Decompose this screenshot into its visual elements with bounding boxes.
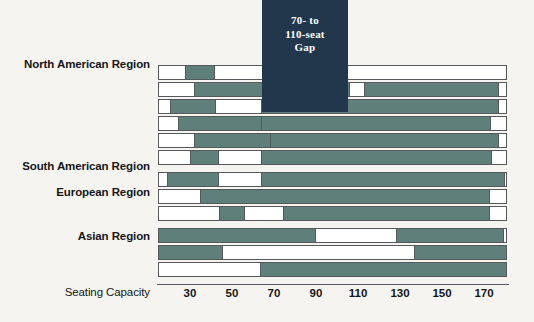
- x-tick-50: 50: [212, 287, 252, 299]
- bar-segment-covered: [414, 246, 507, 259]
- bar-row: [158, 228, 507, 243]
- bar-segment-covered: [167, 173, 220, 186]
- bar-segment-covered: [158, 229, 316, 242]
- x-tick-130: 130: [380, 287, 420, 299]
- region-label-north-american: North American Region: [24, 58, 150, 70]
- x-tick-70: 70: [254, 287, 294, 299]
- bar-segment-covered: [190, 151, 219, 164]
- gap-line-1: 70- to: [262, 14, 348, 28]
- x-tick-170: 170: [464, 287, 504, 299]
- gap-band: 70- to 110-seat Gap: [262, 0, 348, 112]
- x-axis-line: [157, 284, 509, 285]
- bar-row: [158, 245, 507, 260]
- region-label-european: European Region: [56, 186, 150, 198]
- gap-line-3: Gap: [262, 41, 348, 55]
- x-tick-30: 30: [170, 287, 210, 299]
- bar-segment-covered: [364, 83, 498, 96]
- bar-segment-covered: [200, 190, 490, 203]
- x-tick-150: 150: [422, 287, 462, 299]
- bar-row: [158, 262, 507, 277]
- bar-segment-covered: [260, 263, 507, 276]
- axis-title-seating-capacity: Seating Capacity: [65, 286, 150, 298]
- x-tick-90: 90: [296, 287, 336, 299]
- bar-row: [158, 189, 507, 204]
- bar-row: [158, 206, 507, 221]
- bar-segment-covered: [261, 151, 492, 164]
- gap-line-2: 110-seat: [262, 28, 348, 42]
- bar-segment-covered: [270, 134, 499, 147]
- bar-segment-covered: [158, 246, 222, 259]
- bar-row: [158, 150, 507, 165]
- seating-capacity-chart: North American Region South American Reg…: [0, 0, 534, 322]
- bar-segment-covered: [261, 173, 505, 186]
- bar-segment-covered: [261, 117, 491, 130]
- bar-segment-covered: [185, 66, 215, 79]
- bar-segment-covered: [219, 207, 244, 220]
- bar-row: [158, 133, 507, 148]
- region-label-south-american: South American Region: [22, 160, 150, 172]
- bar-row: [158, 172, 507, 187]
- bar-row: [158, 116, 507, 131]
- region-label-asian: Asian Region: [78, 230, 150, 242]
- bar-segment-covered: [170, 100, 216, 113]
- bar-segment-covered: [283, 207, 490, 220]
- bar-segment-covered: [396, 229, 504, 242]
- x-tick-110: 110: [338, 287, 378, 299]
